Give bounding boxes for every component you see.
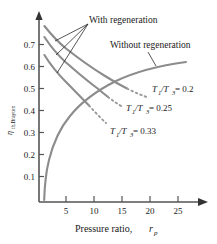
series-label-value: = 0.25 bbox=[149, 103, 173, 113]
series-label-0.25: T 1 /T 3 = 0.25 bbox=[126, 103, 173, 115]
leader-line-3 bbox=[57, 24, 88, 73]
with-regeneration-leaders bbox=[55, 24, 88, 73]
y-tick-0.6: 0.6 bbox=[24, 62, 44, 72]
y-tick-label: 0.6 bbox=[24, 62, 36, 72]
series-label-mid: /T bbox=[134, 103, 144, 113]
x-axis-title-symbol: r bbox=[149, 223, 153, 234]
x-tick-label: 20 bbox=[146, 206, 156, 216]
brayton-efficiency-chart: 0.7 0.6 0.5 0.4 0.3 0.2 bbox=[0, 0, 217, 244]
x-axis-ticks: 5 10 15 20 25 bbox=[64, 196, 183, 216]
x-tick-label: 25 bbox=[174, 206, 184, 216]
y-axis-title: η th,Brayton bbox=[5, 105, 16, 135]
annotation-with-regeneration: With regeneration bbox=[89, 15, 158, 25]
y-tick-0.1: 0.1 bbox=[24, 172, 44, 182]
x-tick-25: 25 bbox=[174, 196, 184, 216]
regeneration-curves bbox=[44, 26, 186, 200]
y-tick-label: 0.2 bbox=[24, 150, 35, 160]
y-tick-label: 0.5 bbox=[24, 84, 36, 94]
x-tick-label: 10 bbox=[90, 206, 100, 216]
x-axis-title-subscript: p bbox=[153, 229, 158, 237]
x-tick-5: 5 bbox=[64, 196, 69, 216]
y-tick-label: 0.4 bbox=[24, 106, 36, 116]
without-regeneration-leader bbox=[148, 52, 156, 66]
y-axis-title-symbol: η bbox=[5, 131, 14, 135]
leader-line-without bbox=[148, 52, 156, 66]
x-axis-title-text: Pressure ratio, bbox=[75, 223, 132, 234]
y-tick-label: 0.7 bbox=[24, 40, 36, 50]
y-axis-arrow-icon bbox=[35, 11, 42, 20]
series-label-0.2: T 1 /T 3 = 0.2 bbox=[152, 84, 194, 96]
x-tick-label: 5 bbox=[64, 206, 69, 216]
curve-t1t3-0.33-dashed bbox=[89, 106, 106, 124]
annotation-without-regeneration: Without regeneration bbox=[110, 40, 191, 50]
x-tick-10: 10 bbox=[90, 196, 100, 216]
series-label-value: = 0.2 bbox=[175, 84, 194, 94]
series-label-mid: /T bbox=[160, 84, 170, 94]
y-tick-0.2: 0.2 bbox=[24, 150, 44, 160]
curve-t1t3-0.2-dashed bbox=[127, 89, 148, 98]
series-label-mid: /T bbox=[118, 126, 128, 136]
y-tick-label: 0.1 bbox=[24, 172, 35, 182]
y-tick-0.5: 0.5 bbox=[24, 84, 44, 94]
x-axis-title: Pressure ratio, r p bbox=[75, 223, 158, 237]
y-tick-0.3: 0.3 bbox=[24, 128, 44, 138]
curve-t1t3-0.25-dashed bbox=[108, 97, 122, 107]
series-label-value: = 0.33 bbox=[133, 126, 157, 136]
y-axis-title-subscript: th,Brayton bbox=[10, 105, 16, 129]
x-tick-label: 15 bbox=[118, 206, 128, 216]
x-axis-arrow-icon bbox=[198, 198, 208, 206]
leader-line-2 bbox=[56, 24, 88, 55]
y-axis-ticks: 0.7 0.6 0.5 0.4 0.3 0.2 bbox=[24, 40, 44, 182]
series-label-0.33: T 1 /T 3 = 0.33 bbox=[110, 126, 157, 138]
x-tick-20: 20 bbox=[146, 196, 156, 216]
x-tick-15: 15 bbox=[118, 196, 128, 216]
y-tick-0.4: 0.4 bbox=[24, 106, 44, 116]
chart-canvas: 0.7 0.6 0.5 0.4 0.3 0.2 bbox=[0, 0, 217, 244]
y-tick-0.7: 0.7 bbox=[24, 40, 44, 50]
y-tick-label: 0.3 bbox=[24, 128, 36, 138]
